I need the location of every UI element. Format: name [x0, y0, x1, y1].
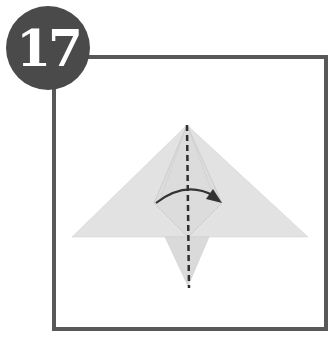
step-number-badge: 17	[6, 6, 90, 90]
step-number: 17	[16, 24, 80, 74]
paper-bottom-point	[165, 237, 209, 286]
